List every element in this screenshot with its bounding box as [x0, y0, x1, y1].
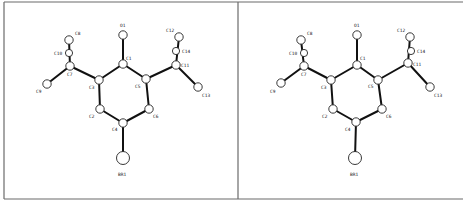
- atom-label-c8: C8: [75, 31, 81, 36]
- atom-c13: [426, 83, 434, 91]
- atom-c7: [66, 62, 74, 70]
- atom-label-c12: C12: [166, 28, 174, 33]
- atom-c9: [277, 79, 285, 87]
- panel-left: O1C1C5C3C2C6C4BR1C7C8C10C9C11C12C14C13: [36, 23, 210, 177]
- atom-c2: [329, 105, 337, 113]
- atom-c4: [352, 118, 360, 126]
- atom-label-c7: C7: [67, 72, 73, 77]
- atom-label-c3: C3: [89, 85, 95, 90]
- atom-c3: [327, 76, 335, 84]
- bond-c5-c11: [378, 63, 408, 80]
- atom-label-c14: C14: [182, 49, 190, 54]
- atom-c12: [406, 33, 414, 41]
- atom-label-c7: C7: [301, 72, 307, 77]
- atom-c5: [374, 76, 382, 84]
- atom-c14: [172, 47, 179, 54]
- atom-c4: [119, 119, 127, 127]
- bond-c11-c13: [176, 65, 198, 87]
- atom-label-c14: C14: [417, 49, 425, 54]
- atom-label-c13: C13: [202, 93, 210, 98]
- atom-label-c11: C11: [181, 63, 189, 68]
- atom-label-c9: C9: [270, 89, 276, 94]
- atom-label-c11: C11: [413, 62, 421, 67]
- atom-label-c1: C1: [126, 56, 132, 61]
- panel-right: O1C1C5C3C2C6C4BR1C7C8C10C9C11C12C14C13: [270, 23, 442, 177]
- atom-c9: [43, 80, 51, 88]
- atom-o1: [119, 31, 127, 39]
- atom-label-c5: C5: [368, 84, 374, 89]
- atom-c6: [145, 105, 153, 113]
- atom-c10: [300, 49, 307, 56]
- atom-label-c10: C10: [54, 51, 62, 56]
- atom-c14: [407, 47, 414, 54]
- atom-c12: [175, 33, 183, 41]
- atom-c11: [172, 61, 180, 69]
- atom-label-c4: C4: [112, 127, 118, 132]
- figure-frame: [4, 2, 463, 199]
- atom-c11: [404, 59, 412, 67]
- molecule-diagram: O1C1C5C3C2C6C4BR1C7C8C10C9C11C12C14C13 O…: [0, 0, 463, 203]
- atom-label-c5: C5: [135, 84, 141, 89]
- atom-label-o1: O1: [120, 23, 126, 28]
- atom-label-o1: O1: [354, 23, 360, 28]
- atom-label-c12: C12: [397, 28, 405, 33]
- atom-label-c2: C2: [322, 114, 328, 119]
- atom-label-br1: BR1: [350, 172, 358, 177]
- atom-o1: [353, 31, 361, 39]
- atom-c8: [297, 36, 305, 44]
- atom-c8: [65, 36, 73, 44]
- atom-c7: [300, 62, 308, 70]
- atom-label-c6: C6: [386, 114, 392, 119]
- atom-label-c6: C6: [153, 114, 159, 119]
- atom-c1: [119, 60, 127, 68]
- atom-label-c9: C9: [36, 89, 42, 94]
- atom-c1: [353, 61, 361, 69]
- atom-br1: [349, 152, 362, 165]
- atom-label-c2: C2: [89, 114, 95, 119]
- stereo-figure: O1C1C5C3C2C6C4BR1C7C8C10C9C11C12C14C13 O…: [0, 0, 463, 203]
- atom-c13: [194, 83, 202, 91]
- atom-br1: [117, 152, 130, 165]
- atom-c3: [95, 76, 103, 84]
- atom-c6: [378, 105, 386, 113]
- atom-label-c13: C13: [434, 93, 442, 98]
- atom-label-c8: C8: [307, 31, 313, 36]
- atom-label-c3: C3: [321, 85, 327, 90]
- atom-label-c1: C1: [360, 56, 366, 61]
- atom-label-br1: BR1: [118, 172, 126, 177]
- atom-c5: [142, 75, 150, 83]
- atom-c10: [65, 49, 72, 56]
- atom-label-c10: C10: [289, 51, 297, 56]
- bond-c5-c11: [146, 65, 176, 79]
- bond-c3-c7: [70, 66, 99, 80]
- atom-c2: [96, 105, 104, 113]
- atom-label-c4: C4: [345, 127, 351, 132]
